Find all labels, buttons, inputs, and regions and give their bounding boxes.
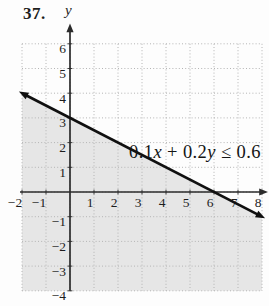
figure-inequality-graph: 37. y −2−112345678−4−3−2−1123456 0.1x + … bbox=[0, 0, 269, 306]
y-tick-label: 5 bbox=[59, 66, 66, 81]
y-tick-label: −3 bbox=[52, 264, 67, 279]
y-axis-arrowhead-icon bbox=[66, 24, 73, 33]
y-tick-label: −2 bbox=[52, 239, 66, 254]
y-tick-label: −4 bbox=[52, 288, 67, 303]
x-axis-arrowhead-icon bbox=[259, 188, 268, 195]
inequality-label-coef1: 0.1 bbox=[129, 142, 153, 162]
inequality-label-var-y: y bbox=[207, 142, 216, 162]
y-tick-label: −1 bbox=[52, 214, 66, 229]
inequality-label-op: + 0.2 bbox=[162, 142, 207, 162]
x-tick-label: 8 bbox=[255, 195, 262, 210]
x-tick-label: 2 bbox=[111, 195, 118, 210]
inequality-label-rhs: ≤ 0.6 bbox=[216, 142, 261, 162]
x-tick-label: 1 bbox=[87, 195, 94, 210]
y-tick-label: 6 bbox=[59, 41, 66, 56]
inequality-label-var-x: x bbox=[153, 142, 162, 162]
x-tick-label: −1 bbox=[32, 195, 46, 210]
x-tick-label: −2 bbox=[8, 195, 22, 210]
boundary-line-arrowhead-right-icon bbox=[255, 211, 265, 219]
y-tick-label: 3 bbox=[59, 115, 66, 130]
y-tick-label: 4 bbox=[59, 91, 66, 106]
inequality-label: 0.1x + 0.2y ≤ 0.6 bbox=[109, 121, 261, 184]
x-tick-label: 5 bbox=[183, 195, 190, 210]
x-tick-label: 3 bbox=[135, 195, 142, 210]
x-tick-label: 4 bbox=[159, 195, 166, 210]
x-tick-label: 6 bbox=[207, 195, 214, 210]
y-tick-label: 2 bbox=[59, 140, 66, 155]
y-tick-label: 1 bbox=[59, 165, 66, 180]
